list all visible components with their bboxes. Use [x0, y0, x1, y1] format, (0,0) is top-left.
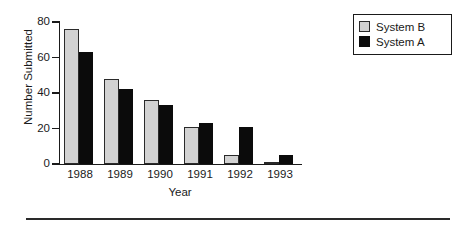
plot-area [60, 22, 300, 164]
bar-chart-figure: Number Submitted Year 020406080 19881989… [0, 0, 462, 230]
y-axis-tick-label: 0 [8, 158, 50, 170]
bar-system-b-1991 [184, 127, 199, 164]
bar-system-b-1993 [264, 162, 279, 164]
x-axis-title: Year [60, 186, 300, 198]
bar-system-a-1990 [159, 105, 174, 164]
x-axis-label-1988: 1988 [60, 168, 100, 180]
bar-system-a-1992 [239, 127, 254, 164]
footer-divider [26, 218, 450, 220]
y-axis-tick [52, 163, 59, 164]
legend-label-system-a: System A [376, 36, 425, 48]
y-axis-tick [52, 92, 59, 93]
x-axis-label-1990: 1990 [140, 168, 180, 180]
bar-system-b-1992 [224, 155, 239, 164]
y-axis-tick [52, 21, 59, 22]
legend-item: System A [359, 34, 445, 49]
y-axis-tick-label: 40 [8, 87, 50, 99]
bar-system-b-1988 [64, 29, 79, 164]
x-axis-label-1991: 1991 [180, 168, 220, 180]
legend-swatch-system-a [359, 36, 370, 47]
bar-system-a-1989 [119, 89, 134, 164]
bar-system-a-1993 [279, 155, 294, 164]
y-axis-tick [52, 128, 59, 129]
x-axis-label-1992: 1992 [220, 168, 260, 180]
bar-system-a-1988 [79, 52, 94, 164]
y-axis-tick-label: 60 [8, 52, 50, 64]
x-axis-label-1989: 1989 [100, 168, 140, 180]
bar-system-b-1990 [144, 100, 159, 164]
y-axis-tick-label: 20 [8, 123, 50, 135]
legend-item: System B [359, 19, 445, 34]
legend-swatch-system-b [359, 21, 370, 32]
y-axis-tick-label: 80 [8, 16, 50, 28]
y-axis-tick [52, 57, 59, 58]
chart-legend: System B System A [353, 14, 452, 55]
legend-label-system-b: System B [376, 21, 425, 33]
bar-system-a-1991 [199, 123, 214, 164]
bar-system-b-1989 [104, 79, 119, 164]
x-axis-label-1993: 1993 [260, 168, 300, 180]
